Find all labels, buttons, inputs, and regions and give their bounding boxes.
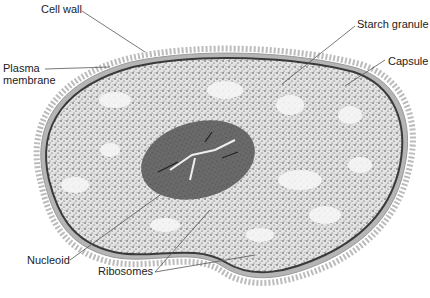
label-ribosomes: Ribosomes — [98, 265, 153, 277]
label-nucleoid: Nucleoid — [27, 254, 70, 266]
label-cell-wall: Cell wall — [41, 3, 82, 15]
label-plasma-membrane-line2: membrane — [3, 74, 56, 86]
label-plasma-membrane-line1: Plasma — [3, 62, 40, 74]
label-capsule: Capsule — [388, 55, 428, 67]
label-starch-granule: Starch granule — [357, 18, 429, 30]
